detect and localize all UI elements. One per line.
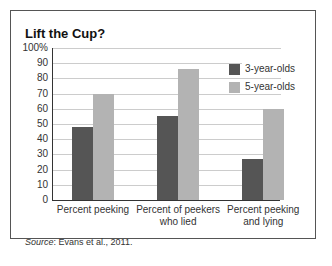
legend-swatch (229, 64, 240, 75)
bar-3-year-olds (157, 116, 178, 200)
legend-label: 5-year-olds (242, 81, 298, 92)
x-tick-label: Percent of peekerswho lied (133, 204, 223, 228)
y-tick-label: 60 (8, 103, 48, 114)
x-axis (52, 200, 280, 201)
bar-3-year-olds (72, 127, 93, 200)
y-tick-label: 0 (8, 194, 48, 205)
gridline (53, 78, 281, 79)
x-tick-label: Percent peeking (48, 204, 138, 216)
y-tick-label: 80 (8, 72, 48, 83)
y-tick-label: 20 (8, 164, 48, 175)
bar-3-year-olds (242, 159, 263, 200)
gridline (53, 48, 281, 49)
bar-5-year-olds (93, 94, 114, 200)
y-tick-label: 30 (8, 148, 48, 159)
y-tick-label: 40 (8, 133, 48, 144)
gridline (53, 94, 281, 95)
bar-5-year-olds (263, 109, 284, 200)
source-note: Source: Evans et al., 2011. (25, 237, 132, 247)
y-tick-label: 90 (8, 57, 48, 68)
y-tick-label: 10 (8, 179, 48, 190)
legend-swatch (229, 82, 240, 93)
y-tick-label: 100% (8, 42, 48, 53)
y-axis (52, 48, 53, 200)
legend-label: 3-year-olds (242, 63, 298, 74)
x-tick-label: Percent peekingand lying (218, 204, 308, 228)
y-tick-label: 50 (8, 118, 48, 129)
gridline (53, 109, 281, 110)
bar-5-year-olds (178, 69, 199, 200)
chart-title: Lift the Cup? (25, 26, 105, 41)
y-tick-label: 70 (8, 88, 48, 99)
